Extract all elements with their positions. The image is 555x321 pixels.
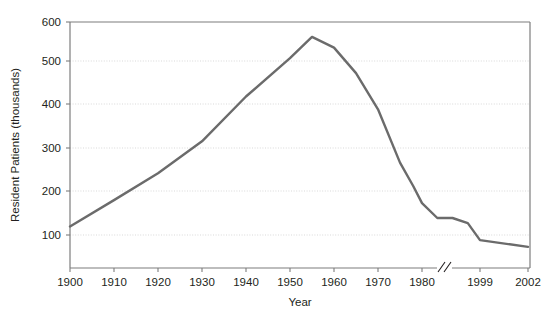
chart-container: 600 500 400 300 200 100 1900 1910 1920 xyxy=(0,0,555,321)
y-tick-label-300: 300 xyxy=(42,142,61,154)
y-tick-label-100: 100 xyxy=(42,229,61,241)
y-tick-label-600: 600 xyxy=(42,16,61,28)
x-tick-label-1960: 1960 xyxy=(321,276,347,288)
x-tick-label-1980: 1980 xyxy=(409,276,435,288)
x-tick-labels: 1900 1910 1920 1930 1940 1950 1960 1970 … xyxy=(57,276,541,288)
x-tick-label-1900: 1900 xyxy=(57,276,83,288)
x-tick-label-2002: 2002 xyxy=(515,276,541,288)
x-tick-label-1920: 1920 xyxy=(145,276,171,288)
x-tick-label-1930: 1930 xyxy=(189,276,215,288)
axis-break-icon xyxy=(438,262,451,272)
x-tick-label-1999: 1999 xyxy=(467,276,493,288)
series-line-resident-patients xyxy=(70,37,528,247)
x-tick-label-1970: 1970 xyxy=(365,276,391,288)
y-tick-label-500: 500 xyxy=(42,55,61,67)
line-chart: 600 500 400 300 200 100 1900 1910 1920 xyxy=(0,0,555,321)
x-tick-label-1940: 1940 xyxy=(233,276,259,288)
x-axis-title: Year xyxy=(288,296,311,308)
y-tick-label-200: 200 xyxy=(42,185,61,197)
x-tick-label-1910: 1910 xyxy=(101,276,127,288)
gridlines xyxy=(70,61,530,235)
y-tick-labels: 600 500 400 300 200 100 xyxy=(42,16,61,241)
y-tick-label-400: 400 xyxy=(42,98,61,110)
axis-frame xyxy=(70,22,530,268)
x-tick-label-1950: 1950 xyxy=(277,276,303,288)
y-axis-title: Resident Patients (thousands) xyxy=(9,68,21,222)
